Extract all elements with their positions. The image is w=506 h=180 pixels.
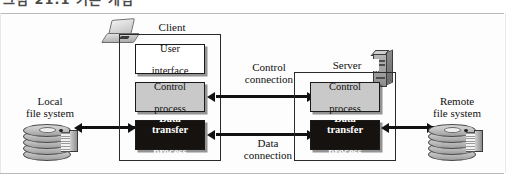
disk-stack-icon-remote xyxy=(428,122,482,164)
client-control-process-line2: process xyxy=(152,103,188,114)
client-title: Client xyxy=(140,21,204,33)
cutoff-caption-strip: 그림 21.1 기본 개념 xyxy=(0,0,506,10)
disk-stack-icon xyxy=(23,122,77,164)
server-control-process-line2: process xyxy=(327,103,363,114)
data-connection-line2: connection xyxy=(244,149,292,161)
control-connection-arrow-left xyxy=(207,92,215,102)
remote-file-system-label: Remote file system xyxy=(417,96,497,119)
server-data-transfer-line1: Data transfer xyxy=(313,113,377,135)
figure-frame-left-edge xyxy=(0,13,1,173)
server-data-transfer-line2: process xyxy=(313,146,377,157)
control-connection-line1: Control xyxy=(252,61,286,73)
local-file-system-label-line1: Local xyxy=(37,95,62,107)
figure-canvas: 그림 21.1 기본 개념 Local file system Client U… xyxy=(0,0,506,180)
remote-link-arrow-left xyxy=(381,123,389,133)
client-user-interface-line2: interface xyxy=(150,65,191,76)
data-connection-line1: Data xyxy=(258,137,279,149)
server-data-transfer-process-box[interactable]: Data transfer process xyxy=(310,120,380,150)
local-file-system-label: Local file system xyxy=(12,96,88,119)
client-user-interface-box[interactable]: User interface xyxy=(135,44,205,74)
control-connection-line2: connection xyxy=(245,73,293,85)
server-control-process-line1: Control xyxy=(327,81,363,92)
server-control-process-box[interactable]: Control process xyxy=(310,82,380,112)
remote-file-system-label-line1: Remote xyxy=(440,95,474,107)
client-data-transfer-line1: Data transfer xyxy=(138,113,202,135)
client-control-process-line1: Control xyxy=(152,81,188,92)
client-data-transfer-process-box[interactable]: Data transfer process xyxy=(135,120,205,150)
client-data-transfer-line2: process xyxy=(138,146,202,157)
local-file-system-label-line2: file system xyxy=(26,107,74,119)
cutoff-caption-text: 그림 21.1 기본 개념 xyxy=(3,0,134,8)
client-user-interface-line1: User xyxy=(150,43,191,54)
server-title: Server xyxy=(315,59,379,71)
remote-file-system-label-line2: file system xyxy=(433,107,481,119)
data-connection-arrow-left xyxy=(207,130,215,140)
local-link-arrow-left xyxy=(74,123,82,133)
client-control-process-box[interactable]: Control process xyxy=(135,82,205,112)
